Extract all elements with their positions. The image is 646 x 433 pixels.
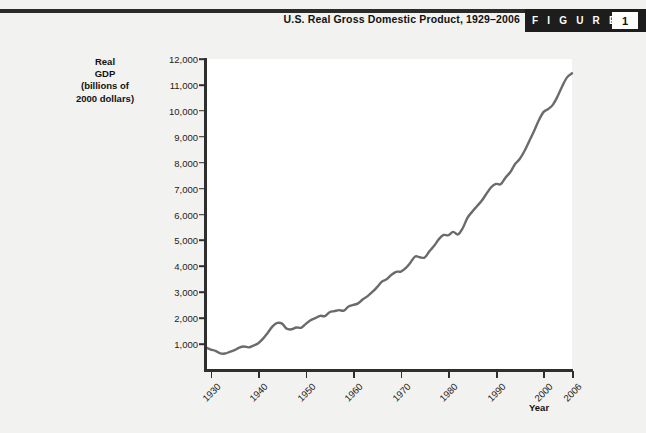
x-tick-label: 2000 — [533, 381, 556, 404]
y-tick-label: 12,000 — [140, 54, 198, 65]
x-tick-label: 1990 — [485, 381, 508, 404]
x-tick-mark — [543, 371, 545, 378]
y-tick-mark — [199, 58, 206, 60]
y-tick-mark — [199, 84, 206, 86]
figure-badge-label: F I G U R E — [532, 16, 619, 26]
x-tick-label: 2006 — [561, 381, 584, 404]
y-tick-label: 1,000 — [140, 339, 198, 350]
x-tick-mark — [401, 371, 403, 378]
plot-area — [206, 59, 572, 370]
y-tick-label: 8,000 — [140, 157, 198, 168]
x-tick-mark — [572, 371, 574, 378]
y-tick-mark — [199, 214, 206, 216]
x-tick-label: 1940 — [247, 381, 270, 404]
x-tick-mark — [448, 371, 450, 378]
y-tick-mark — [199, 162, 206, 164]
x-tick-mark — [353, 371, 355, 378]
y-tick-mark — [199, 266, 206, 268]
y-tick-label: 9,000 — [140, 131, 198, 142]
y-tick-label: 4,000 — [140, 261, 198, 272]
figure-title: U.S. Real Gross Domestic Product, 1929–2… — [200, 13, 520, 25]
x-tick-mark — [306, 371, 308, 378]
y-tick-label: 5,000 — [140, 235, 198, 246]
figure-page: U.S. Real Gross Domestic Product, 1929–2… — [0, 0, 646, 433]
figure-badge-number: 1 — [612, 12, 638, 29]
y-tick-label: 3,000 — [140, 287, 198, 298]
gdp-line-series — [206, 59, 572, 370]
x-tick-label: 1930 — [200, 381, 223, 404]
y-tick-mark — [199, 240, 206, 242]
x-axis-title: Year — [529, 402, 549, 413]
y-tick-label: 6,000 — [140, 209, 198, 220]
x-tick-mark — [258, 371, 260, 378]
figure-badge: F I G U R E 1 — [525, 9, 646, 32]
y-tick-label: 10,000 — [140, 105, 198, 116]
x-tick-label: 1960 — [342, 381, 365, 404]
y-tick-mark — [199, 188, 206, 190]
x-tick-label: 1950 — [295, 381, 318, 404]
y-tick-mark — [199, 110, 206, 112]
y-axis-title-line-3: 2000 dollars) — [50, 93, 160, 105]
x-tick-label: 1970 — [390, 381, 413, 404]
x-tick-mark — [211, 371, 213, 378]
y-tick-mark — [199, 343, 206, 345]
gdp-line-path — [206, 73, 572, 353]
y-tick-label: 7,000 — [140, 183, 198, 194]
x-tick-label: 1980 — [437, 381, 460, 404]
y-tick-label: 2,000 — [140, 313, 198, 324]
y-tick-mark — [199, 291, 206, 293]
x-tick-mark — [496, 371, 498, 378]
y-tick-label: 11,000 — [140, 79, 198, 90]
y-tick-mark — [199, 136, 206, 138]
y-tick-mark — [199, 317, 206, 319]
